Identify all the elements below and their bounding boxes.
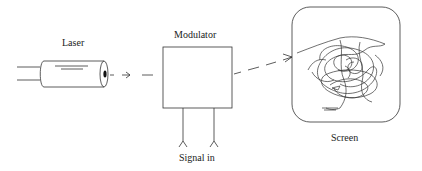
- laser-label: Laser: [62, 37, 84, 48]
- optical-modulation-diagram: [0, 0, 422, 171]
- beam-out: [234, 54, 292, 74]
- laser-wires: [17, 67, 40, 80]
- modulator-box: [163, 47, 232, 108]
- screen-box: [292, 7, 400, 122]
- modulator-label: Modulator: [174, 29, 216, 40]
- screen-label: Screen: [331, 132, 358, 143]
- beam-in: [110, 72, 153, 78]
- laser-cylinder: [40, 61, 108, 87]
- scribble-pattern: [297, 37, 385, 110]
- signal-in-label: Signal in: [179, 152, 215, 163]
- signal-leads: [179, 108, 218, 147]
- laser-aperture: [103, 71, 106, 78]
